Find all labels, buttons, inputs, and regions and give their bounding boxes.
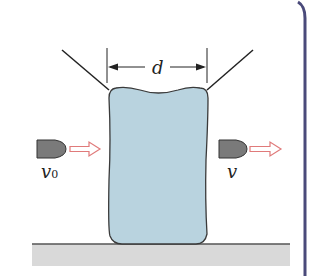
velocity-arrow-incoming-icon: [70, 142, 100, 156]
arrowhead-left-icon: [108, 64, 118, 71]
velocity-arrow-outgoing-icon: [250, 142, 281, 156]
ground-surface: [32, 244, 290, 266]
right-string: [207, 50, 253, 90]
block: [109, 87, 208, 244]
final-velocity-label: v: [227, 161, 237, 182]
initial-velocity-label: v0: [41, 161, 58, 182]
arrowhead-right-icon: [196, 64, 206, 71]
width-label: d: [152, 57, 164, 78]
left-string: [62, 50, 109, 90]
diagram-canvas: d v0 v: [0, 0, 315, 276]
frame-border: [298, 2, 305, 276]
initial-velocity-subscript: 0: [51, 168, 58, 181]
width-dimension: d: [107, 48, 207, 83]
bullet-outgoing-icon: [219, 140, 247, 158]
bullet-incoming-icon: [37, 140, 66, 158]
